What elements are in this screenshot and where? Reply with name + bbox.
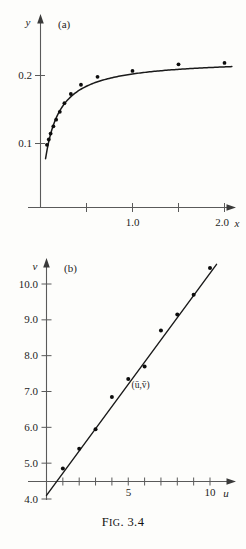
y-tick-label-b-4: 8.0	[24, 349, 38, 361]
data-point	[192, 293, 196, 297]
caption-prefix: F	[102, 515, 109, 529]
data-point	[61, 467, 65, 471]
y-axis-label-a: y	[25, 16, 31, 28]
chart-a: 0.1 0.2 1.0 2.0 y x (a)	[0, 0, 246, 240]
data-point	[96, 75, 100, 79]
data-point	[77, 447, 81, 451]
x-axis-label-b: u	[223, 487, 229, 499]
data-point	[79, 83, 83, 87]
data-point	[94, 427, 98, 431]
data-point	[223, 61, 227, 65]
x-tick-label-a-1: 2.0	[215, 216, 229, 228]
centroid-annotation: (ū,v̄)	[132, 380, 150, 391]
y-tick-label-b-3: 7.0	[24, 385, 38, 397]
data-point	[126, 377, 130, 381]
x-axis-arrow-a	[227, 204, 237, 211]
data-point	[58, 110, 62, 114]
data-point	[63, 101, 67, 105]
data-point	[45, 143, 49, 147]
caption-smallcaps: IG	[109, 517, 120, 528]
y-tick-label-b-6: 10.0	[19, 278, 39, 290]
data-point	[49, 132, 53, 136]
x-tick-label-a-0: 1.0	[126, 216, 140, 228]
panel-a: 0.1 0.2 1.0 2.0 y x (a)	[0, 0, 246, 240]
x-axis-arrow-b	[227, 478, 237, 485]
y-axis-arrow-a	[37, 14, 44, 24]
figure-3-4: 0.1 0.2 1.0 2.0 y x (a)	[0, 0, 246, 549]
figure-caption: FIG. 3.4	[0, 515, 246, 530]
data-point	[47, 138, 51, 142]
data-point	[175, 312, 179, 316]
data-point	[208, 266, 212, 270]
y-tick-label-a-0: 0.1	[18, 137, 32, 149]
y-tick-label-b-2: 6.0	[24, 421, 38, 433]
y-tick-label-b-5: 9.0	[24, 313, 38, 325]
data-point	[177, 62, 181, 66]
data-points-b	[61, 266, 212, 471]
data-point	[69, 92, 73, 96]
fit-curve-a	[46, 67, 232, 159]
x-axis-label-a: x	[234, 217, 240, 229]
y-tick-label-a-1: 0.2	[18, 69, 32, 81]
panel-b: 4.05.06.07.08.09.010.0 5 10 v u (b) (ū,v…	[0, 240, 246, 515]
data-point	[131, 69, 135, 73]
panel-label-a: (a)	[58, 18, 71, 31]
panel-label-b: (b)	[64, 262, 77, 275]
y-axis-arrow-b	[43, 258, 50, 268]
y-tick-label-b-0: 4.0	[24, 493, 38, 505]
data-point	[159, 329, 163, 333]
data-point	[54, 118, 58, 122]
caption-rest: . 3.4	[120, 515, 144, 529]
y-axis-label-b: v	[33, 260, 38, 272]
x-tick-label-b-1: 10	[205, 486, 217, 498]
x-tick-label-b-0: 5	[126, 486, 132, 498]
data-point	[51, 124, 55, 128]
data-point	[143, 364, 147, 368]
data-point	[110, 395, 114, 399]
y-tick-label-b-1: 5.0	[24, 457, 38, 469]
chart-b: 4.05.06.07.08.09.010.0 5 10 v u (b) (ū,v…	[0, 240, 246, 515]
